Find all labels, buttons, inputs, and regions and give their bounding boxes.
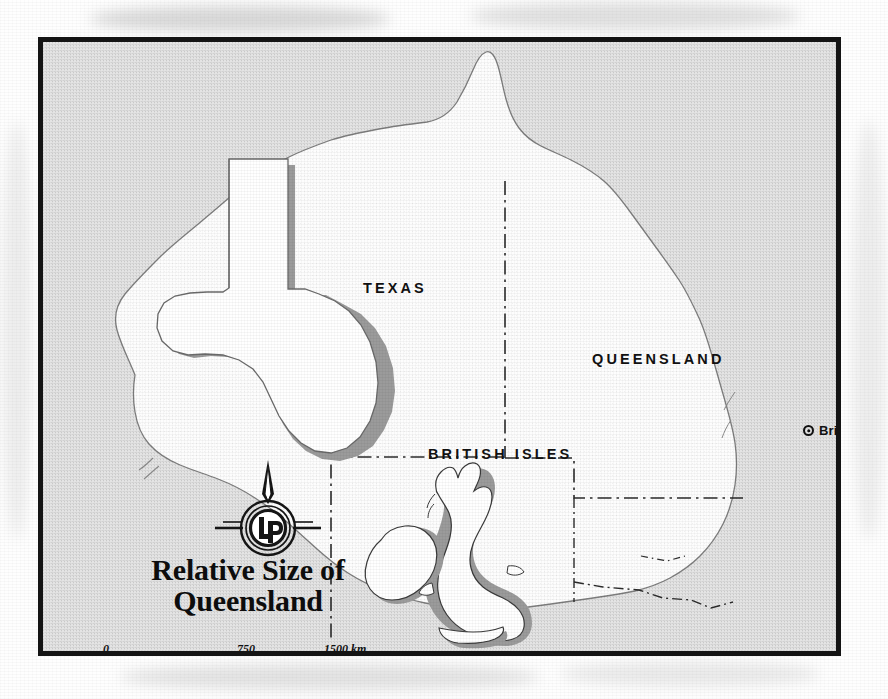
page-root: TEXAS QUEENSLAND BRITISH ISLES Brisbane [0,0,888,699]
scale-tick-labels: 0 750 1500 km [103,642,390,656]
map-canvas: TEXAS QUEENSLAND BRITISH ISLES Brisbane [43,42,836,651]
city-marker-brisbane[interactable]: Brisbane [803,423,841,438]
scan-smudge [560,662,820,686]
lonely-planet-compass-logo [215,458,321,560]
scan-smudge [2,120,32,540]
north-needle-highlight [265,466,271,501]
scale-tick-750: 750 [237,642,255,656]
scan-smudge [470,2,800,30]
scale-tick-0: 0 [103,642,109,656]
city-label-brisbane: Brisbane [819,423,841,438]
scan-smudge [852,120,886,540]
map-frame: TEXAS QUEENSLAND BRITISH ISLES Brisbane [38,37,841,656]
scan-smudge [90,6,390,32]
scale-tick-1500: 1500 km [324,642,366,656]
map-vector-layer [43,42,836,651]
scan-smudge [120,664,540,690]
compass-logo-icon [215,458,321,560]
scale-bar: 0 750 1500 km [103,642,390,656]
circled-dot-icon [803,425,814,436]
